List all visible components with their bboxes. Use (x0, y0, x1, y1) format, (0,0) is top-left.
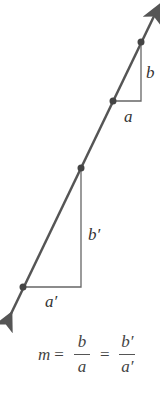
label-b-prime: b′ (88, 226, 100, 243)
fraction-bprime-over-aprime: b′ a′ (119, 332, 135, 377)
point (78, 165, 85, 172)
fraction-bar (119, 354, 135, 355)
slope-equation: m = b a = b′ a′ (38, 332, 141, 377)
denominator: a (78, 357, 87, 377)
point (138, 39, 145, 46)
label-a: a (124, 108, 133, 125)
point (20, 284, 27, 291)
denominator: a′ (121, 357, 133, 377)
numerator: b (78, 332, 87, 352)
fraction-bar (74, 354, 90, 355)
equals-sign: = (100, 345, 110, 365)
label-b: b (146, 64, 155, 81)
label-a-prime: a′ (45, 293, 57, 310)
fraction-b-over-a: b a (74, 332, 90, 377)
slope-symbol: m (38, 345, 50, 365)
point (110, 98, 117, 105)
equals-sign: = (54, 345, 64, 365)
numerator: b′ (121, 332, 133, 352)
